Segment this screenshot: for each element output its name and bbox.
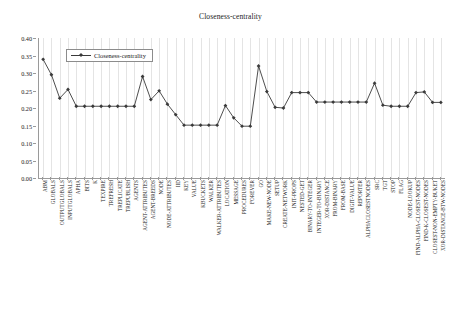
y-axis-ticks: 0.000.050.100.150.200.250.300.350.40 [0,34,36,182]
x-axis-tick-label: FROM-BINARY [332,180,338,217]
x-axis-tick-label: TREPLICATE [117,180,123,211]
data-point-marker [83,104,87,108]
x-axis-tick-label: IID [175,180,181,187]
data-point-marker [348,100,352,104]
legend-label: Closeness-centrality [94,52,146,59]
data-point-marker [141,75,145,79]
x-axis-tick-label: WALKER [208,180,214,202]
x-axis-tick-label: STOP [390,180,396,193]
x-axis-tick-label: WALKER-ATTRIBUTES [216,180,222,235]
data-point-marker [99,104,103,108]
chart-legend: Closeness-centrality [66,49,153,62]
y-axis-tick-label: 0.40 [21,35,32,42]
y-axis-tick-mark [33,108,36,109]
y-axis-tick-label: 0.05 [21,157,32,164]
x-axis-tick-label: AGENTS [133,180,139,201]
x-axis-tick-label: FLAG [398,180,404,194]
x-axis-tick-label: DIGIT-VALUE [349,180,355,213]
y-axis-tick-label: 0.30 [21,70,32,77]
legend-line-swatch [71,55,91,56]
data-point-marker [265,90,269,94]
data-point-marker [398,104,402,108]
y-axis-tick-mark [33,143,36,144]
x-axis-tick-label: NODE-ATTRIBUTES [166,180,172,228]
x-axis-tick-label: SRC [374,180,380,190]
x-axis-tick-label: NESTED-GET [299,180,305,212]
y-axis-tick-mark [33,73,36,74]
x-axis-tick-label: TEXPIRE [100,180,106,202]
x-axis-tick-label: NODE [158,180,164,195]
data-point-marker [373,81,377,85]
x-axis-tick-label: ABM [42,180,48,192]
data-point-marker [41,57,45,61]
data-point-marker [323,100,327,104]
x-axis-tick-label: CLOSEST-NON-EMPTY-BUKET [432,180,438,254]
data-point-marker [331,100,335,104]
data-point-marker [273,105,277,109]
data-point-marker [116,104,120,108]
x-axis-tick-label: KBUCKETS [200,180,206,208]
x-axis-tick-label: GO [258,180,264,188]
data-point-marker [74,104,78,108]
x-axis-tick-label: OUTPUTGLOBALS [59,180,65,225]
x-axis-tick-label: MESSAGE [233,180,239,205]
x-axis-tick-label: CREATE-NETWORK [282,180,288,228]
data-point-marker [439,101,443,105]
data-point-marker [207,123,211,127]
closeness-centrality-chart: Closeness-centrality 0.000.050.100.150.2… [0,0,461,315]
data-point-marker [248,124,252,128]
x-axis-tick-label: XOR-DISTANCE-BTW-NODES [440,180,446,251]
x-axis-tick-label: NODE-LOOKUP [407,180,413,218]
data-point-marker [340,100,344,104]
x-axis-tick-label: FIND-K-CLOSEST-NODES [423,180,429,241]
x-axis-tick-label: ALPHACLOSESTNODES [365,180,371,238]
x-axis-tick-label: FROM-BASE [340,180,346,210]
data-point-marker [298,91,302,95]
series-line [43,59,441,126]
y-axis-tick-label: 0.00 [21,175,32,182]
x-axis-tick-label: FOREVER [249,180,255,204]
data-point-marker [50,73,54,77]
data-point-marker [215,123,219,127]
x-axis-tick-label: XOR-DISTANCE [324,180,330,219]
data-point-marker [257,64,261,68]
x-axis-tick-label: GLOBALS [50,180,56,204]
x-axis-tick-label: AGENT-BREEDS [150,180,156,219]
x-axis-tick-label: VALUE [191,180,197,197]
x-axis-tick-label: REPORTER [357,180,363,207]
x-axis-tick-label: PROCEDURES [241,180,247,214]
y-axis-tick-mark [33,56,36,57]
x-axis-tick-label: LOCATION [224,180,230,206]
data-point-marker [190,123,194,127]
y-axis-tick-mark [33,161,36,162]
y-axis-tick-mark [33,126,36,127]
data-point-marker [199,123,203,127]
x-axis-labels: ABMGLOBALSOUTPUTGLOBALSINPUTGLOBALSAPHAB… [38,180,444,312]
x-axis-tick-label: TGT [382,180,388,190]
data-point-marker [91,104,95,108]
x-axis-tick-label: TREPUBLISH [125,180,131,212]
y-axis-tick-label: 0.20 [21,105,32,112]
y-axis-tick-mark [33,38,36,39]
y-axis-tick-label: 0.10 [21,140,32,147]
data-point-marker [406,104,410,108]
y-axis-tick-mark [33,178,36,179]
x-axis-tick-label: SETUP [274,180,280,196]
x-axis-tick-label: BINARY-TO-INTEGER [307,180,313,232]
x-axis-tick-label: INIT-PROPS [291,180,297,208]
y-axis-tick-label: 0.25 [21,87,32,94]
data-point-marker [124,104,128,108]
x-axis-tick-label: FIND-ALPHA-CLOSEST-NODES [415,180,421,255]
x-axis-tick-label: MAKE-NEW-NODE [266,180,272,225]
data-point-marker [290,91,294,95]
x-axis-tick-label: INTEGER-TO-BINARY [316,180,322,233]
data-point-marker [132,104,136,108]
chart-title: Closeness-centrality [0,12,461,21]
x-axis-tick-label: TREFRESH [108,180,114,206]
x-axis-tick-label: AGENT-ATTRIBUTES [142,180,148,231]
data-point-marker [282,106,286,110]
x-axis-tick-label: INPUTGLOBALS [67,180,73,220]
data-point-marker [381,103,385,107]
x-axis-tick-label: BITS [84,180,90,191]
x-axis-tick-label: APHA [75,180,81,194]
